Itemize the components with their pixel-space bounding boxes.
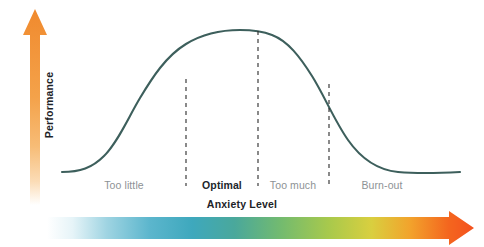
zone-label-too-little: Too little (104, 179, 144, 191)
zone-label-optimal: Optimal (202, 179, 242, 191)
zone-label-burn-out: Burn-out (361, 179, 402, 191)
chart-canvas: Too little Optimal Too much Burn-out Anx… (0, 0, 484, 247)
performance-curve (62, 30, 460, 173)
x-axis-arrow (47, 211, 474, 245)
zone-label-too-much: Too much (270, 179, 316, 191)
x-axis-title: Anxiety Level (207, 198, 277, 210)
y-axis-title: Performance (43, 72, 55, 138)
zone-dividers (186, 31, 329, 186)
